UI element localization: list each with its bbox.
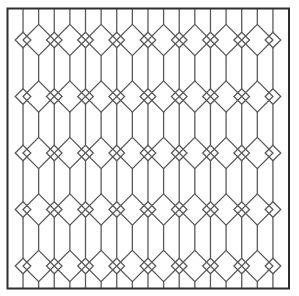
large-diamond — [179, 137, 210, 168]
large-diamond — [148, 250, 179, 281]
large-diamond — [242, 250, 273, 281]
large-diamond — [179, 24, 210, 55]
large-diamond — [148, 194, 179, 225]
large-diamond — [54, 194, 85, 225]
leaded-glass-pattern — [0, 0, 299, 296]
large-diamond — [210, 250, 241, 281]
large-diamond — [210, 137, 241, 168]
large-diamond — [148, 137, 179, 168]
large-diamond — [117, 81, 148, 112]
lattice-lines — [15, 9, 281, 289]
large-diamond — [117, 250, 148, 281]
large-diamond — [86, 81, 117, 112]
large-diamond — [179, 194, 210, 225]
large-diamond — [54, 137, 85, 168]
large-diamond — [86, 24, 117, 55]
large-diamond — [86, 194, 117, 225]
large-diamond — [148, 81, 179, 112]
large-diamond — [210, 24, 241, 55]
large-diamond — [210, 194, 241, 225]
large-diamond — [179, 250, 210, 281]
large-diamond — [23, 81, 54, 112]
large-diamond — [242, 24, 273, 55]
large-diamond — [23, 24, 54, 55]
large-diamond — [117, 194, 148, 225]
large-diamond — [242, 81, 273, 112]
large-diamond — [86, 137, 117, 168]
large-diamond — [54, 24, 85, 55]
large-diamond — [23, 194, 54, 225]
large-diamond — [210, 81, 241, 112]
large-diamond — [242, 137, 273, 168]
large-diamond — [86, 250, 117, 281]
large-diamond — [148, 24, 179, 55]
lattice-drawing — [0, 0, 299, 296]
large-diamond — [179, 81, 210, 112]
large-diamond — [117, 137, 148, 168]
large-diamond — [54, 250, 85, 281]
large-diamond — [117, 24, 148, 55]
large-diamond — [54, 81, 85, 112]
large-diamond — [242, 194, 273, 225]
large-diamond — [23, 250, 54, 281]
large-diamond — [23, 137, 54, 168]
